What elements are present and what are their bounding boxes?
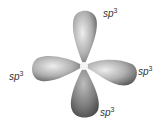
label-left: sp3 <box>9 70 23 82</box>
nucleus <box>80 62 88 70</box>
label-right: sp3 <box>138 65 152 77</box>
label-bottom: sp3 <box>100 106 114 118</box>
sp3-orbitals-diagram <box>0 0 163 126</box>
left-lobe <box>32 56 84 81</box>
top-lobe <box>73 11 97 66</box>
label-top: sp3 <box>103 7 117 19</box>
bottom-lobe <box>71 66 99 118</box>
